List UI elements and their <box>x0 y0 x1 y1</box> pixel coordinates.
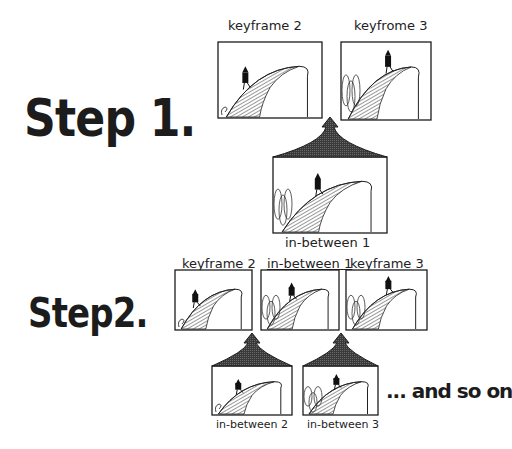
climber-body-icon <box>192 294 198 302</box>
frame-step1-inbetween-1 <box>273 157 387 233</box>
climber-body-icon <box>315 179 321 190</box>
climber-body-icon <box>385 56 391 67</box>
arrow-step2-b <box>303 333 378 366</box>
climber-body-icon <box>242 72 248 83</box>
climber-body-icon <box>235 383 241 390</box>
arrow-step1 <box>273 117 387 157</box>
up-arrow-icon <box>273 117 387 157</box>
up-arrow-icon <box>212 333 292 366</box>
climber-body-icon <box>385 281 391 289</box>
arrow-step2-a <box>212 333 292 366</box>
climber-body-icon <box>333 378 339 385</box>
frame-step2-keyframe-2 <box>175 270 252 330</box>
frame-step1-keyframe-3 <box>341 42 431 120</box>
frame-step2-keyframe-3 <box>346 270 427 330</box>
frame-step2-inbetween-2 <box>212 366 292 415</box>
frame-step2-inbetween-3 <box>303 366 378 415</box>
climber-body-icon <box>289 287 295 295</box>
frame-step1-keyframe-2 <box>218 42 322 118</box>
frame-step2-inbetween-1 <box>261 270 339 330</box>
up-arrow-icon <box>303 333 378 366</box>
